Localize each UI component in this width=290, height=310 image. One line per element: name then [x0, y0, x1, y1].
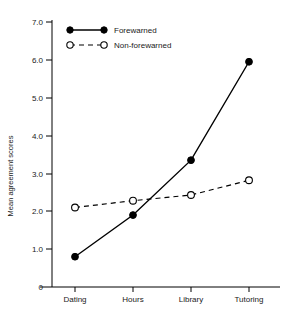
y-tick-label-3: 3.0	[32, 170, 44, 179]
x-label-library: Library	[179, 295, 203, 304]
data-point-hours	[130, 212, 137, 219]
y-axis-title: Mean agreement scores	[6, 135, 15, 216]
y-tick-label-2: 2.0	[32, 207, 44, 216]
legend-label-forewarned: Forewarned	[114, 26, 157, 35]
y-tick-label-6: 6.0	[32, 56, 44, 65]
data-point-library	[188, 157, 195, 164]
data-point-tutoring	[246, 58, 253, 65]
y-tick-label-7: 7.0	[32, 18, 44, 27]
y-tick-label-1: 1.0	[32, 245, 44, 254]
data-point-dating	[72, 204, 79, 211]
legend-marker-forewarned-right	[101, 27, 107, 33]
y-tick-label-4: 4.0	[32, 132, 44, 141]
line-chart: 7.0 6.0 5.0 4.0 3.0 2.0 1.0 0 Mean agree…	[0, 0, 290, 310]
x-label-hours: Hours	[122, 295, 143, 304]
data-point-library	[188, 192, 195, 199]
x-label-tutoring: Tutoring	[234, 295, 263, 304]
legend-label-non-forewarned: Non-forewarned	[114, 41, 171, 50]
legend-marker-forewarned-left	[67, 27, 73, 33]
data-point-hours	[130, 197, 137, 204]
legend-marker-non-forewarned-left	[67, 42, 73, 48]
chart-figure: 7.0 6.0 5.0 4.0 3.0 2.0 1.0 0 Mean agree…	[0, 0, 290, 310]
data-point-dating	[72, 253, 79, 260]
legend-marker-non-forewarned-right	[101, 42, 107, 48]
y-tick-label-5: 5.0	[32, 94, 44, 103]
y-tick-label-0: 0	[39, 283, 44, 292]
data-point-tutoring	[246, 177, 253, 184]
x-label-dating: Dating	[63, 295, 86, 304]
